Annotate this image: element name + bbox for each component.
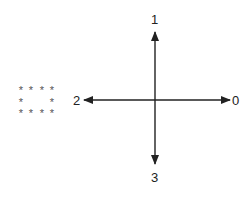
star-icon: * bbox=[27, 108, 35, 119]
star-icon: * bbox=[48, 108, 56, 119]
star-icon: * bbox=[17, 85, 25, 96]
label-1: 1 bbox=[151, 13, 158, 26]
label-0: 0 bbox=[232, 94, 239, 107]
star-icon: * bbox=[17, 108, 25, 119]
star-icon: * bbox=[38, 108, 46, 119]
star-icon: * bbox=[38, 85, 46, 96]
label-2: 2 bbox=[73, 94, 80, 107]
label-3: 3 bbox=[151, 171, 158, 184]
direction-diagram: 0 1 2 3 * * * * * * * * * * bbox=[0, 0, 252, 197]
star-icon: * bbox=[27, 85, 35, 96]
axes-graphic bbox=[0, 0, 252, 197]
star-icon: * bbox=[48, 85, 56, 96]
